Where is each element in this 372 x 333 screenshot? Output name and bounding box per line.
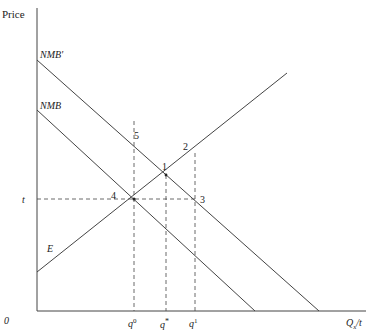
e-label: E [47, 244, 53, 254]
point-4-dot [132, 197, 135, 200]
q0-label: q0 [128, 318, 137, 329]
point-3-label: 3 [200, 195, 205, 205]
qstar-label: q* [160, 318, 169, 330]
nmb-prime-label: NMB' [40, 50, 63, 60]
origin-label: 0 [4, 316, 9, 326]
y-axis-label: Price [2, 9, 25, 20]
q0-superscript: 0 [133, 317, 137, 325]
x-axis-label: Qx/t [346, 318, 362, 331]
point-1-dot [165, 174, 168, 177]
nmb-curve [37, 110, 255, 311]
point-4-label: 4 [111, 191, 116, 201]
q1-superscript: 1 [194, 317, 198, 325]
q1-label: q1 [189, 318, 198, 329]
nmb-label: NMB [40, 101, 61, 111]
point-5-label: 5 [134, 131, 139, 141]
e-curve [37, 73, 287, 272]
nmb-prime-curve [37, 60, 319, 311]
point-1-label: 1 [162, 162, 167, 172]
x-axis-label-suffix: /t [356, 317, 362, 328]
point-2-label: 2 [183, 142, 188, 152]
qstar-superscript: * [165, 317, 169, 326]
t-price-label: t [22, 195, 25, 205]
